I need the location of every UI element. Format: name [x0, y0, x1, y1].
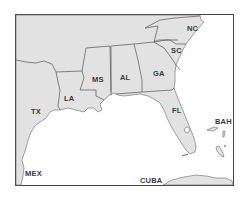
label-mex: MEX [25, 169, 42, 178]
label-ga: GA [153, 69, 165, 78]
label-nc: NC [187, 24, 198, 33]
label-bah: BAH [215, 117, 232, 126]
label-fl: FL [172, 106, 182, 115]
lake-okeechobee [185, 127, 190, 133]
label-tx: TX [31, 107, 41, 116]
label-cuba: CUBA [140, 176, 162, 185]
label-la: LA [64, 94, 74, 103]
label-al: AL [120, 73, 130, 82]
label-sc: SC [171, 46, 182, 55]
label-ms: MS [92, 75, 104, 84]
